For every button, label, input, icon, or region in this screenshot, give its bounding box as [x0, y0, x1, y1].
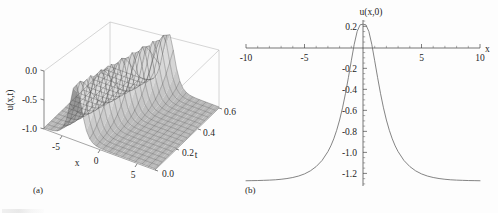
x-tick-1: 0	[94, 156, 99, 166]
t-tick-1: 0.2	[182, 148, 194, 158]
y-tick-label: 0.2	[345, 22, 357, 32]
x-tick-label: -10	[240, 53, 253, 63]
z-tick-2: -1.0	[22, 124, 37, 134]
z-axis: 0.0 -0.5 -1.0 u(x,t)	[5, 66, 44, 134]
y-tick-label: -1.0	[342, 148, 357, 158]
line-plot-svg: u(x,0) -10-55100.2-0.2-0.4-0.6-0.8-1.0-1…	[240, 0, 498, 213]
z-axis-title: u(x,t)	[5, 90, 16, 111]
plot-title: u(x,0)	[360, 7, 383, 18]
t-tick-2: 0.4	[203, 128, 215, 138]
panel-b-caption: (b)	[245, 185, 256, 195]
t-axis-title: t	[195, 150, 198, 160]
x-tick-label: 5	[419, 53, 424, 63]
t-tick-0: 0.0	[162, 169, 174, 179]
y-tick-label: -0.6	[342, 106, 357, 116]
tick-labels-group: -10-55100.2-0.2-0.4-0.6-0.8-1.0-1.2	[240, 22, 485, 179]
y-tick-label: -1.2	[342, 169, 357, 179]
figure-container: 0.0 -0.5 -1.0 u(x,t) -5 0 5 x	[0, 0, 498, 213]
panel-a-surface-plot: 0.0 -0.5 -1.0 u(x,t) -5 0 5 x	[0, 0, 249, 213]
x-tick-0: -5	[52, 142, 60, 152]
y-tick-label: -0.4	[342, 85, 357, 95]
x-tick-label: 10	[475, 53, 485, 63]
scan-artifact	[2, 209, 44, 213]
x-axis-title: x	[75, 158, 80, 168]
x-axis-title: x	[485, 44, 490, 54]
panel-a-caption: (a)	[33, 185, 43, 195]
panel-b-line-plot: u(x,0) -10-55100.2-0.2-0.4-0.6-0.8-1.0-1…	[240, 0, 498, 213]
surface-plot-svg: 0.0 -0.5 -1.0 u(x,t) -5 0 5 x	[0, 0, 249, 213]
y-tick-label: -0.8	[342, 127, 357, 137]
x-tick-2: 5	[131, 170, 136, 180]
z-tick-0: 0.0	[25, 66, 37, 76]
t-tick-3: 0.6	[224, 107, 236, 117]
z-tick-1: -0.5	[22, 95, 37, 105]
x-tick-label: -5	[301, 53, 309, 63]
axes-group	[246, 20, 480, 186]
